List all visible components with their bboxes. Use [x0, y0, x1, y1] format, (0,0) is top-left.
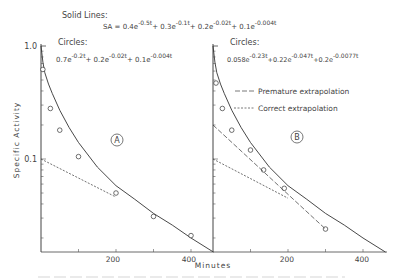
data-point — [220, 106, 225, 111]
data-point — [114, 191, 119, 196]
y-axis-label: Specific Activity — [12, 102, 21, 179]
circles-header-b: Circles: — [230, 38, 259, 47]
legend: Premature extrapolation Correct extrapol… — [234, 87, 350, 113]
panel-label-b: B — [291, 131, 303, 143]
x-axis-label: Minutes — [195, 261, 232, 270]
data-point — [48, 106, 53, 111]
circles-equation-b: 0.058e-0.23t+0.22e-0.047t+0.2e-0.0077t — [227, 52, 359, 64]
circles-equation-a: 0.7e-0.2t+ 0.2e-0.02t+ 0.1e-0.004t — [56, 52, 173, 64]
solid-lines-header: Solid Lines: — [62, 11, 108, 20]
data-point — [282, 186, 287, 191]
data-point — [248, 148, 253, 153]
plot-area — [41, 44, 387, 252]
panel-label-a: A — [111, 134, 123, 146]
data-point — [41, 67, 46, 72]
chart-canvas: Solid Lines: SA = 0.4e-0.5t+ 0.3e-0.1t+ … — [0, 0, 400, 280]
correct-extrapolation-line — [41, 159, 116, 197]
legend-premature: Premature extrapolation — [258, 87, 350, 96]
data-point — [189, 233, 194, 238]
circles-header-a: Circles: — [58, 38, 87, 47]
x-tick-200-a: 200 — [106, 255, 121, 264]
x-tick-400-a: 400 — [182, 255, 197, 264]
data-point — [229, 128, 234, 133]
svg-text:SA = 0.4e-0.5t+ 0.3e-0.1t+ 0.2: SA = 0.4e-0.5t+ 0.3e-0.1t+ 0.2e-0.02t+ 0… — [103, 19, 277, 31]
data-point — [151, 214, 156, 219]
svg-text:A: A — [114, 136, 120, 145]
premature-extrapolation-line — [213, 125, 326, 229]
correct-extrapolation-line — [213, 159, 288, 198]
solid-equation: SA = 0.4e-0.5t+ 0.3e-0.1t+ 0.2e-0.02t+ 0… — [103, 19, 277, 31]
data-point — [214, 81, 219, 86]
x-tick-200-b: 200 — [280, 255, 295, 264]
data-point — [57, 128, 62, 133]
data-point — [76, 154, 81, 159]
y-tick-label-1: 1.0 — [24, 42, 37, 51]
y-tick-label-0.1: 0.1 — [24, 155, 37, 164]
solid-lines-line — [41, 46, 214, 252]
svg-text:B: B — [294, 133, 300, 142]
legend-correct: Correct extrapolation — [258, 104, 338, 113]
x-tick-400-b: 400 — [355, 255, 370, 264]
